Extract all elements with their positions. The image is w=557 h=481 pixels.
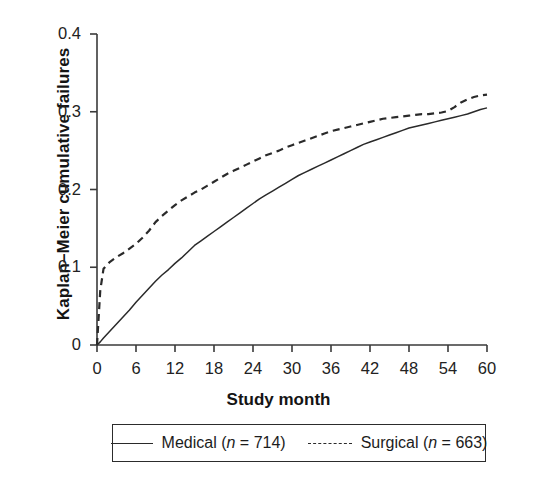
- kaplan-meier-figure: Kaplan–Meier cumulative failures 00.10.2…: [0, 0, 557, 481]
- x-tick-label-8: 48: [389, 359, 429, 378]
- x-tick-label-7: 42: [350, 359, 390, 378]
- legend-entry-surgical: Surgical (n = 663): [308, 434, 488, 452]
- x-tick-label-5: 30: [272, 359, 312, 378]
- x-tick-label-10: 60: [467, 359, 507, 378]
- x-tick-label-4: 24: [233, 359, 273, 378]
- x-tick-label-2: 12: [155, 359, 195, 378]
- x-tick-label-3: 18: [194, 359, 234, 378]
- legend-line-solid-icon: [111, 443, 153, 444]
- x-axis-title: Study month: [0, 390, 557, 410]
- legend-label-medical: Medical (n = 714): [162, 434, 286, 452]
- x-tick-label-6: 36: [311, 359, 351, 378]
- legend-label-surgical: Surgical (n = 663): [361, 434, 488, 452]
- legend-box: Medical (n = 714) Surgical (n = 663): [112, 424, 486, 462]
- series-group: [97, 95, 487, 345]
- series-line-medical: [97, 108, 487, 345]
- y-tick-label-2: 0.2: [35, 180, 81, 199]
- x-tick-label-1: 6: [116, 359, 156, 378]
- series-line-surgical: [97, 95, 487, 345]
- axis-group: [90, 34, 487, 352]
- legend-entry-medical: Medical (n = 714): [111, 434, 286, 452]
- y-tick-label-1: 0.1: [35, 257, 81, 276]
- x-tick-label-9: 54: [428, 359, 468, 378]
- x-tick-label-0: 0: [77, 359, 117, 378]
- y-tick-label-0: 0: [35, 335, 81, 354]
- y-tick-label-3: 0.3: [35, 102, 81, 121]
- y-tick-label-4: 0.4: [35, 24, 81, 43]
- legend-line-dashed-icon: [308, 443, 352, 444]
